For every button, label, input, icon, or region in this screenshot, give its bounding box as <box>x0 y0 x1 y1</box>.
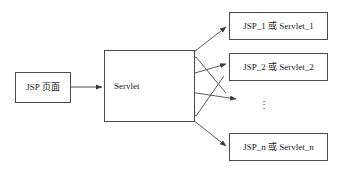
node-jsp-page-label: JSP 页面 <box>26 83 59 92</box>
node-target-n[interactable]: JSP_n 或 Servlet_n <box>229 133 328 161</box>
clipped-header-text: · ···· ··· ··· ·· ·· <box>4 0 100 4</box>
node-servlet-label: Servlet <box>114 82 140 91</box>
diamond-cross-lower <box>196 76 224 116</box>
node-target-1[interactable]: JSP_1 或 Servlet_1 <box>229 12 328 40</box>
vertical-ellipsis: ⋮ <box>258 96 270 114</box>
diamond-cross-upper <box>196 57 226 93</box>
node-target-2-label: JSP_2 或 Servlet_2 <box>243 63 314 72</box>
diagram-canvas: · ···· ··· ··· ·· ·· JSP 页面 Servlet JSP_… <box>0 0 338 172</box>
node-jsp-page[interactable]: JSP 页面 <box>15 72 71 103</box>
node-target-n-label: JSP_n 或 Servlet_n <box>243 143 314 152</box>
node-servlet[interactable]: Servlet <box>104 50 195 122</box>
node-target-2[interactable]: JSP_2 或 Servlet_2 <box>229 53 328 81</box>
node-target-1-label: JSP_1 或 Servlet_1 <box>243 22 314 31</box>
